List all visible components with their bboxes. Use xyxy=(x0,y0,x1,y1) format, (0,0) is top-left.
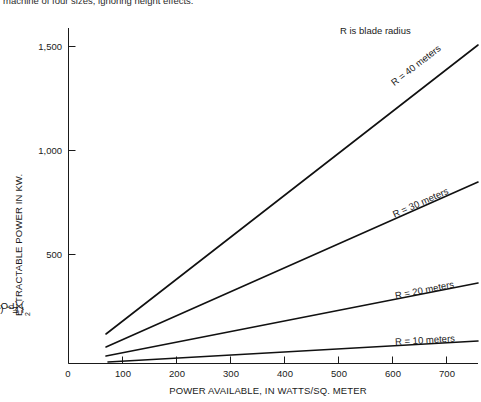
wind-power-chart-figure: machine of four sizes, ignoring height e… xyxy=(0,0,481,402)
x-axis-title: POWER AVAILABLE, IN WATTS/SQ. METER xyxy=(68,385,468,396)
y-axis-title-line2-suffix: ) (POWER AVAILABLE) xyxy=(0,301,24,312)
x-tick-label-100: 100 xyxy=(115,368,131,379)
x-tick-label-500: 500 xyxy=(331,368,347,379)
y-axis-ticks xyxy=(69,47,76,255)
y-axis-title-line1: EXTRACTABLE POWER IN KW. xyxy=(13,174,24,316)
y-axis-title-line2-exponent: 2 xyxy=(24,312,31,316)
x-tick-label-700: 700 xyxy=(439,368,455,379)
x-tick-label-400: 400 xyxy=(277,368,293,379)
y-axis-title-line2: I.E., (.40) (π R2) (POWER AVAILABLE) xyxy=(24,312,36,316)
x-tick-label-200: 200 xyxy=(169,368,185,379)
x-tick-label-300: 300 xyxy=(223,368,239,379)
x-axis-ticks xyxy=(69,357,447,364)
y-tick-label-500: 500 xyxy=(20,249,62,260)
y-axis-title: EXTRACTABLE POWER IN KW. I.E., (.40) (π … xyxy=(0,100,26,320)
blade-radius-note: R is blade radius xyxy=(340,25,411,36)
y-tick-label-1500: 1,500 xyxy=(20,41,62,52)
x-tick-label-0: 0 xyxy=(65,368,70,379)
y-tick-label-1000: 1,000 xyxy=(20,145,62,156)
x-tick-label-600: 600 xyxy=(385,368,401,379)
